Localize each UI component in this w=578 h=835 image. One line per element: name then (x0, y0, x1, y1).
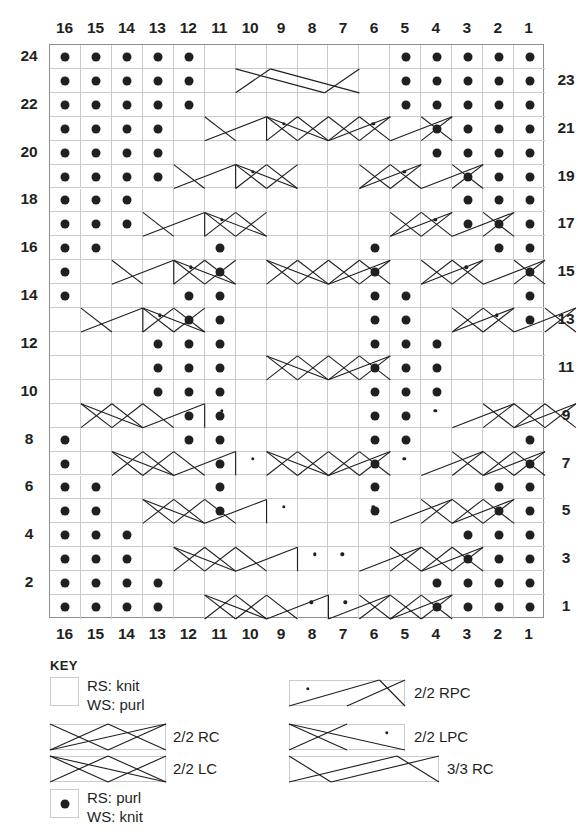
cable-stroke (205, 212, 267, 236)
column-number-top: 14 (118, 19, 135, 37)
purl-stitch-dot (92, 172, 101, 181)
purl-stitch-dot (463, 148, 472, 157)
cable-stroke (359, 547, 421, 571)
purl-stitch-dot (216, 435, 225, 444)
purl-stitch-dot (525, 268, 534, 277)
row-number-left: 16 (21, 238, 38, 256)
purl-stitch-dot (401, 292, 410, 301)
cable-stroke (267, 117, 329, 141)
purl-stitch-dot (216, 387, 225, 396)
row-number-right: 23 (558, 71, 575, 89)
purl-stitch-dot (123, 603, 132, 612)
column-number-top: 13 (149, 19, 166, 37)
knitting-chart: 16151413121110987654321 1615141312111098… (0, 0, 578, 640)
purl-stitch-dot (370, 483, 379, 492)
purl-stitch-dot (525, 555, 534, 564)
purl-stitch-dot (154, 76, 163, 85)
purl-stitch-dot (525, 603, 534, 612)
cable-stroke (174, 165, 236, 189)
purl-stitch-dot (61, 268, 70, 277)
purl-stitch-dot (463, 100, 472, 109)
cable-stroke (421, 260, 483, 284)
purl-stitch-dot (401, 387, 410, 396)
cable-stroke (174, 547, 236, 571)
purl-stitch-dot (185, 292, 194, 301)
cable-stroke (143, 212, 174, 236)
column-number-top: 5 (401, 19, 409, 37)
row-number-right: 15 (558, 262, 575, 280)
purl-stitch-dot (154, 387, 163, 396)
column-number-bottom: 16 (56, 625, 73, 643)
purl-stitch-dot (463, 196, 472, 205)
purl-stitch-dot (525, 531, 534, 540)
purl-stitch-dot (185, 363, 194, 372)
cable-stroke (174, 165, 205, 189)
purl-stitch-dot (525, 76, 534, 85)
column-number-bottom: 6 (370, 625, 378, 643)
purl-stitch-dot (401, 363, 410, 372)
cable-stroke (390, 499, 452, 523)
purl-stitch-dot (494, 220, 503, 229)
cable-stroke (112, 260, 143, 284)
purl-stitch-dot (432, 387, 441, 396)
purl-stitch-dot (185, 435, 194, 444)
purl-stitch-dot (123, 196, 132, 205)
cable-stroke (270, 69, 359, 93)
cable-stroke (143, 308, 205, 332)
purl-stitch-dot (92, 124, 101, 133)
cable-stroke (205, 117, 267, 141)
purl-stitch-dot (154, 172, 163, 181)
column-number-bottom: 12 (180, 625, 197, 643)
column-number-bottom: 9 (277, 625, 285, 643)
purl-stitch-dot (185, 100, 194, 109)
column-number-bottom: 3 (462, 625, 470, 643)
purl-stitch-dot (432, 52, 441, 61)
purl-stitch-dot (61, 100, 70, 109)
purl-stitch-dot (216, 268, 225, 277)
cable-stroke (267, 260, 329, 284)
purl-stitch-dot (494, 483, 503, 492)
purl-stitch-dot (494, 244, 503, 253)
purl-stitch-dot (61, 555, 70, 564)
row-number-left: 14 (21, 286, 38, 304)
purl-stitch-dot (525, 435, 534, 444)
cable-stroke (328, 117, 390, 141)
cable-stroke (421, 452, 483, 476)
row-number-left: 20 (21, 143, 38, 161)
purl-stitch-dot (154, 52, 163, 61)
purl-stitch-dot (154, 100, 163, 109)
cable-stroke (205, 117, 236, 141)
purl-stitch-dot (370, 363, 379, 372)
purl-stitch-dot (154, 148, 163, 157)
cable-stroke (143, 404, 174, 428)
cable-stroke (205, 499, 267, 523)
row-number-left: 10 (21, 382, 38, 400)
purl-stitch-dot (494, 507, 503, 516)
column-number-bottom: 7 (339, 625, 347, 643)
purl-stitch-dot (525, 579, 534, 588)
purl-stitch-dot (494, 148, 503, 157)
cable-stroke (267, 595, 298, 619)
purl-stitch-dot (463, 172, 472, 181)
cable-stroke (289, 724, 405, 750)
purl-stitch-dot (401, 100, 410, 109)
purl-stitch-dot (123, 531, 132, 540)
purl-stitch-dot (525, 148, 534, 157)
purl-stitch-dot (525, 124, 534, 133)
column-number-top: 8 (308, 19, 316, 37)
cable-stroke (236, 547, 267, 571)
purl-stitch-dot (61, 196, 70, 205)
purl-stitch-dot (525, 316, 534, 325)
cable-stroke (421, 547, 483, 571)
cable-stroke (236, 165, 298, 189)
cable-stroke (347, 680, 405, 706)
purl-stitch-dot (123, 220, 132, 229)
purl-stitch-dot (61, 148, 70, 157)
column-number-top: 2 (493, 19, 501, 37)
column-number-bottom: 4 (432, 625, 440, 643)
chart-key: KEY RS: knit WS: purl 2/2 RC 2/2 LC RS: … (49, 658, 549, 826)
purl-stitch-dot (432, 100, 441, 109)
row-number-left: 4 (25, 525, 33, 543)
purl-stitch-dot (92, 196, 101, 205)
column-number-bottom: 13 (149, 625, 166, 643)
